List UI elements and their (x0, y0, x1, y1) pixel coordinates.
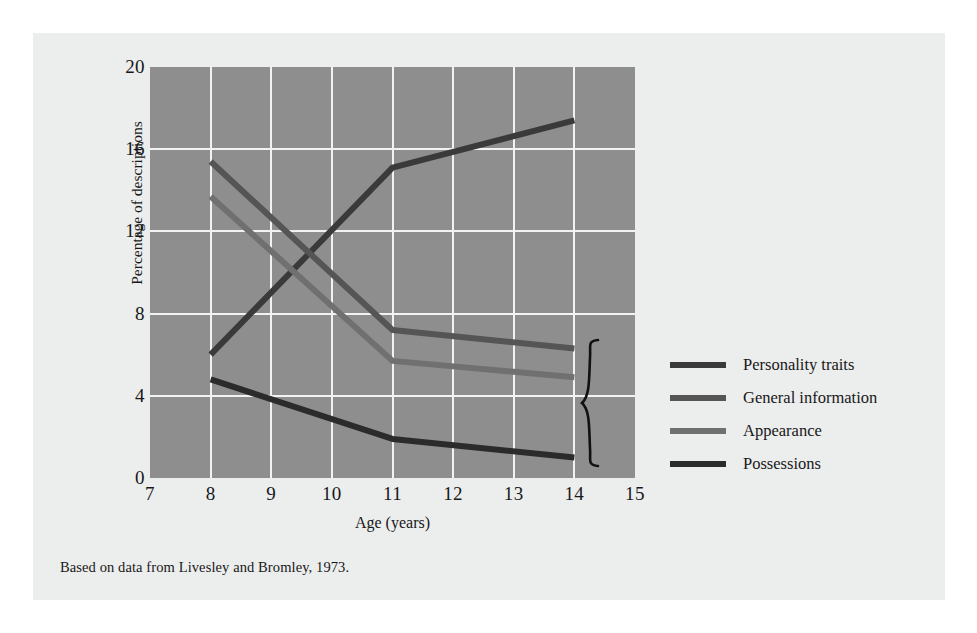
legend-item-label: Possessions (743, 454, 821, 474)
legend-item: General information (670, 381, 930, 414)
legend-swatch-icon (670, 428, 726, 434)
x-axis-tick-label: 8 (206, 483, 216, 505)
x-axis-tick-labels: 789101112131415 (150, 483, 635, 509)
x-axis-tick-label: 12 (443, 483, 463, 505)
x-axis-tick-label: 15 (625, 483, 645, 505)
figure-caption: Based on data from Livesley and Bromley,… (60, 559, 349, 576)
curly-brace-icon (578, 338, 604, 468)
y-axis-tick-label: 0 (135, 467, 145, 489)
y-axis-tick-labels: 048121620 (103, 67, 145, 478)
legend-item: Possessions (670, 447, 930, 480)
x-axis-tick-label: 11 (383, 483, 402, 505)
x-axis-tick-label: 7 (145, 483, 155, 505)
x-axis-title: Age (years) (150, 514, 635, 532)
plot-region (150, 67, 635, 478)
legend-item: Personality traits (670, 348, 930, 381)
legend-swatch-icon (670, 362, 726, 368)
x-axis-tick-label: 10 (322, 483, 342, 505)
series-line (211, 162, 575, 349)
legend: Personality traitsGeneral informationApp… (670, 348, 930, 480)
series-line (211, 196, 575, 377)
series-layer (150, 67, 635, 478)
x-axis-tick-label: 14 (564, 483, 584, 505)
y-axis-tick-label: 12 (125, 220, 145, 242)
legend-swatch-icon (670, 461, 726, 467)
legend-item-label: General information (743, 388, 877, 408)
legend-swatch-icon (670, 395, 726, 401)
series-line (211, 120, 575, 354)
y-axis-tick-label: 4 (135, 385, 145, 407)
legend-item-label: Personality traits (743, 355, 854, 375)
series-line (211, 379, 575, 457)
legend-item-label: Appearance (743, 421, 822, 441)
y-axis-tick-label: 20 (125, 56, 145, 78)
x-axis-tick-label: 13 (504, 483, 524, 505)
brace-annotation (578, 338, 604, 468)
x-axis-tick-label: 9 (266, 483, 276, 505)
y-axis-tick-label: 8 (135, 303, 145, 325)
figure-panel: Percentage of descriptions including thi… (33, 33, 945, 600)
y-axis-tick-label: 16 (125, 138, 145, 160)
legend-item: Appearance (670, 414, 930, 447)
